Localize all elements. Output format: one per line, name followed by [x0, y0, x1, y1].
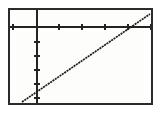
screenshot-root: [0, 0, 160, 113]
calculator-graph-screen[interactable]: [8, 8, 153, 105]
graph-plot-area[interactable]: [10, 10, 151, 103]
